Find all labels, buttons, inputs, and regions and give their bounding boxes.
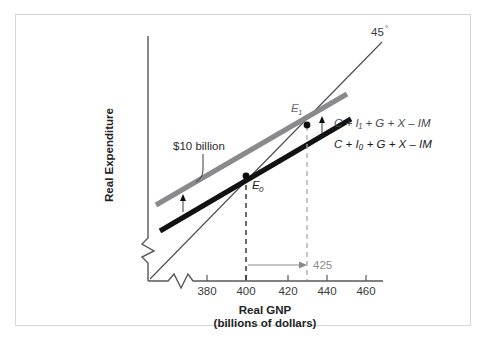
chart-canvas: 380 400 420 440 460 E 0 E 1 45 ° — [0, 0, 488, 342]
keynesian-cross-figure: 380 400 420 440 460 E 0 E 1 45 ° — [0, 0, 488, 342]
x-tick-label-460: 460 — [356, 285, 375, 297]
x-axis — [148, 274, 383, 288]
e0-label-subscript: 0 — [259, 185, 264, 194]
forty-five-degree-line — [150, 42, 382, 279]
ten-billion-gap-label: $10 billion — [173, 140, 225, 152]
x-axis-ticks — [207, 275, 366, 281]
x-tick-label-400: 400 — [236, 285, 255, 297]
x-axis-title-line1: Real GNP — [239, 304, 292, 316]
forty-five-degree-label: 45 — [371, 26, 384, 38]
y-axis — [142, 36, 154, 281]
y-axis-title: Real Expenditure — [103, 108, 115, 202]
equilibrium-point-e1 — [304, 122, 311, 129]
x-tick-label-380: 380 — [197, 285, 216, 297]
x-tick-label-420: 420 — [278, 285, 297, 297]
e1-label-group: E 1 — [291, 102, 302, 117]
gap-arrow-left — [180, 194, 186, 212]
curve-label-low-investment: C + I₀ + G + X – IM — [334, 138, 432, 150]
e1-label-subscript: 1 — [298, 108, 302, 117]
forty-five-degree-label-group: 45 ° — [371, 24, 388, 38]
curve-label-high-investment: C + I₁ + G + X – IM — [334, 117, 431, 129]
new-equilibrium-arrow — [248, 262, 307, 269]
e0-label-group: E 0 — [252, 179, 264, 194]
x-tick-label-440: 440 — [317, 285, 336, 297]
new-equilibrium-value-label: 425 — [313, 259, 332, 271]
expenditure-curve-low-investment — [160, 119, 351, 231]
equilibrium-point-e0 — [243, 173, 250, 180]
degree-symbol-icon: ° — [385, 24, 388, 33]
x-axis-title-line2: (billions of dollars) — [214, 317, 317, 329]
gap-arrow-right — [319, 116, 325, 134]
